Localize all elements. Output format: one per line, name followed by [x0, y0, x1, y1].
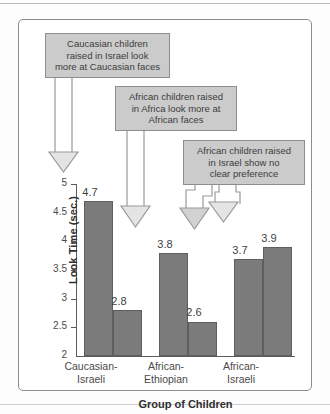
- x-category-african-israeli-line2: Israeli: [195, 373, 287, 386]
- y-tick-label-3: 3: [41, 292, 67, 303]
- figure-page: Look Time (sec.) 5 4.5 4 3.5 3 2.5 2: [0, 0, 330, 414]
- y-tick-label-4_5: 4.5: [41, 206, 67, 217]
- callout-1-line1: Caucasian children: [51, 38, 164, 50]
- callout-african-ethiopian[interactable]: African children raised in Africa look m…: [115, 86, 237, 131]
- top-divider: [0, 3, 330, 4]
- callout-1-line2: raised in Israel look: [51, 50, 164, 62]
- bar-african-ethiopian-caucasian-faces[interactable]: [159, 253, 188, 356]
- callout-1-line3: more at Caucasian faces: [51, 61, 164, 73]
- arrow-head-1: [49, 152, 78, 172]
- y-tick-label-2: 2: [41, 349, 67, 360]
- bar-value-2_8: 2.8: [102, 295, 136, 307]
- callout-2-line3: African faces: [121, 114, 231, 126]
- callout-2-line1: African children raised: [121, 91, 231, 103]
- callout-3-line3: clear preference: [189, 168, 299, 180]
- arrow-shaft-1: [55, 72, 72, 154]
- y-tick-label-4: 4: [41, 234, 67, 245]
- bar-african-israeli-african-faces[interactable]: [263, 247, 292, 356]
- bar-value-3_8: 3.8: [148, 238, 182, 250]
- chart-figure-frame: Look Time (sec.) 5 4.5 4 3.5 3 2.5 2: [18, 19, 312, 391]
- bar-caucasian-israeli-african-faces[interactable]: [113, 310, 142, 356]
- callout-african-israeli[interactable]: African children raised in Israel show n…: [183, 140, 305, 185]
- bar-value-4_7: 4.7: [73, 186, 107, 198]
- x-category-african-israeli: African- Israeli: [195, 360, 287, 385]
- callout-2-line2: in Africa look more at: [121, 103, 231, 115]
- x-axis-title: Group of Children: [76, 398, 295, 410]
- bar-african-israeli-caucasian-faces[interactable]: [234, 259, 263, 357]
- bar-caucasian-israeli-caucasian-faces[interactable]: [84, 201, 113, 356]
- callout-caucasian-israeli[interactable]: Caucasian children raised in Israel look…: [45, 33, 170, 78]
- bar-value-3_9: 3.9: [252, 232, 286, 244]
- bar-african-ethiopian-african-faces[interactable]: [188, 322, 217, 356]
- callout-3-line1: African children raised: [189, 145, 299, 157]
- bar-value-3_7: 3.7: [223, 244, 257, 256]
- callout-3-line2: in Israel show no: [189, 157, 299, 169]
- y-tick-label-3_5: 3.5: [41, 263, 67, 274]
- x-category-african-israeli-line1: African-: [195, 360, 287, 373]
- x-axis-line: [76, 356, 295, 357]
- plot-area: [76, 184, 294, 356]
- y-tick-label-5: 5: [41, 177, 67, 188]
- bar-value-2_6: 2.6: [177, 306, 211, 318]
- y-tick-label-2_5: 2.5: [41, 320, 67, 331]
